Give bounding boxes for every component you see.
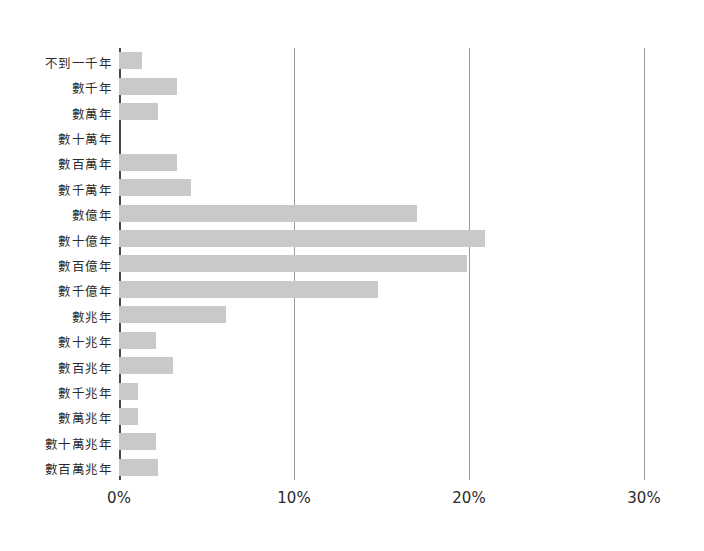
bar bbox=[119, 459, 158, 476]
category-label: 數十兆年 bbox=[0, 332, 112, 351]
bar-row bbox=[119, 175, 644, 200]
bar bbox=[119, 357, 173, 374]
bar bbox=[119, 306, 226, 323]
value-axis-labels: 0%10%20%30% bbox=[0, 489, 704, 515]
category-label: 數百億年 bbox=[0, 256, 112, 275]
bar-row bbox=[119, 328, 644, 353]
bar-row bbox=[119, 150, 644, 175]
bar-row bbox=[119, 302, 644, 327]
x-tick-label: 30% bbox=[604, 489, 684, 507]
bar-row bbox=[119, 251, 644, 276]
bar-chart-figure: 不到一千年數千年數萬年數十萬年數百萬年數千萬年數億年數十億年數百億年數千億年數兆… bbox=[0, 0, 704, 551]
category-label: 數千萬年 bbox=[0, 180, 112, 199]
bar-row bbox=[119, 429, 644, 454]
bar bbox=[119, 408, 138, 425]
category-label: 數百兆年 bbox=[0, 358, 112, 377]
category-label: 數百萬兆年 bbox=[0, 459, 112, 478]
bar bbox=[119, 433, 156, 450]
category-label: 數千億年 bbox=[0, 281, 112, 300]
category-axis-labels: 不到一千年數千年數萬年數十萬年數百萬年數千萬年數億年數十億年數百億年數千億年數兆… bbox=[0, 48, 112, 480]
bar bbox=[119, 383, 138, 400]
bar-row bbox=[119, 48, 644, 73]
x-tick-label: 10% bbox=[254, 489, 334, 507]
chart-title bbox=[0, 0, 704, 3]
category-label: 數萬年 bbox=[0, 104, 112, 123]
bar bbox=[119, 205, 417, 222]
x-tick-label: 20% bbox=[429, 489, 509, 507]
bar bbox=[119, 103, 158, 120]
bar bbox=[119, 52, 142, 69]
x-tick-label: 0% bbox=[79, 489, 159, 507]
gridline-30% bbox=[644, 48, 645, 480]
bar-row bbox=[119, 124, 644, 149]
category-label: 數十億年 bbox=[0, 231, 112, 250]
category-label: 數萬兆年 bbox=[0, 408, 112, 427]
bar-row bbox=[119, 226, 644, 251]
bar-row bbox=[119, 455, 644, 480]
category-label: 不到一千年 bbox=[0, 53, 112, 72]
bar bbox=[119, 332, 156, 349]
bar-row bbox=[119, 277, 644, 302]
category-label: 數千年 bbox=[0, 78, 112, 97]
category-label: 數十萬年 bbox=[0, 129, 112, 148]
bar bbox=[119, 78, 177, 95]
plot-area bbox=[119, 48, 644, 480]
bar bbox=[119, 179, 191, 196]
bar bbox=[119, 230, 485, 247]
bar-row bbox=[119, 404, 644, 429]
category-label: 數百萬年 bbox=[0, 154, 112, 173]
bar-row bbox=[119, 378, 644, 403]
bar bbox=[119, 154, 177, 171]
category-label: 數十萬兆年 bbox=[0, 434, 112, 453]
bar-row bbox=[119, 99, 644, 124]
category-label: 數兆年 bbox=[0, 307, 112, 326]
category-label: 數億年 bbox=[0, 205, 112, 224]
bar bbox=[119, 281, 378, 298]
bar-row bbox=[119, 73, 644, 98]
bar-row bbox=[119, 200, 644, 225]
bar bbox=[119, 255, 467, 272]
bar-row bbox=[119, 353, 644, 378]
category-label: 數千兆年 bbox=[0, 383, 112, 402]
